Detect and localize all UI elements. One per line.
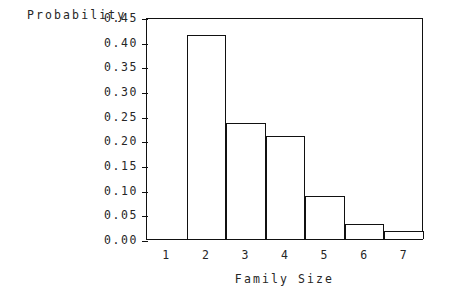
- y-axis-tick-label: 0.35: [104, 60, 138, 74]
- y-axis-tick-label: 0.10: [104, 184, 138, 198]
- x-axis-tick-label: 4: [281, 248, 288, 262]
- x-axis-tick-label-group: 1234567: [146, 248, 423, 264]
- bar: [187, 35, 227, 239]
- x-axis-tick-label: 2: [202, 248, 209, 262]
- y-axis-tick-label: 0.20: [104, 134, 138, 148]
- bar: [226, 123, 266, 239]
- y-axis-tick-label: 0.15: [104, 159, 138, 173]
- y-axis-tick-label: 0.05: [104, 208, 138, 222]
- y-axis-tick-mark: [142, 241, 148, 242]
- y-axis-tick-label: 0.00: [104, 233, 138, 247]
- y-axis-tick-label: 0.30: [104, 85, 138, 99]
- bar-group: [147, 19, 422, 239]
- x-axis-title: Family Size: [146, 272, 423, 286]
- y-axis-tick-label: 0.45: [104, 11, 138, 25]
- x-axis-tick-label: 3: [241, 248, 248, 262]
- bar: [305, 196, 345, 239]
- x-axis-tick-label: 7: [400, 248, 407, 262]
- plot-area: [146, 18, 423, 240]
- probability-histogram-figure: Probability 0.000.050.100.150.200.250.30…: [0, 0, 461, 301]
- y-axis-tick-label: 0.25: [104, 110, 138, 124]
- bar: [266, 136, 306, 239]
- y-axis-tick-label-group: 0.000.050.100.150.200.250.300.350.400.45: [98, 14, 138, 240]
- x-axis-tick-label: 5: [321, 248, 328, 262]
- bar: [345, 224, 385, 239]
- y-axis-tick-label: 0.40: [104, 36, 138, 50]
- x-axis-tick-label: 6: [360, 248, 367, 262]
- bar: [384, 231, 424, 239]
- x-axis-tick-label: 1: [162, 248, 169, 262]
